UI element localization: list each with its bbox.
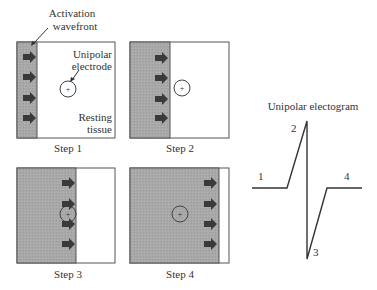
svg-text:+: + [66, 210, 71, 219]
diagram-canvas: + Activation wavefront Unipolar electrod… [0, 0, 377, 290]
electrogram-trace [252, 121, 362, 259]
point-label-4: 4 [344, 170, 350, 182]
step-label: Step 4 [166, 268, 194, 280]
electrode-label-1: Unipolar [73, 48, 112, 60]
tissue-label-1: Resting [78, 111, 112, 123]
step-1-panel: + Activation wavefront Unipolar electrod… [17, 7, 115, 154]
svg-text:+: + [66, 85, 71, 94]
electrogram: Unipolar electogram 1 2 3 4 [252, 100, 362, 259]
wavefront-label-1: Activation [49, 7, 96, 19]
tissue-label-2: tissue [87, 123, 112, 135]
step-2-panel: + Step 2 [130, 42, 229, 154]
point-label-1: 1 [258, 170, 264, 182]
point-label-2: 2 [291, 122, 297, 134]
electrogram-title: Unipolar electogram [268, 100, 359, 112]
electrode-label-2: electrode [72, 60, 112, 72]
point-label-3: 3 [313, 246, 319, 258]
step-4-panel: + Step 4 [130, 168, 229, 280]
svg-text:+: + [178, 210, 183, 219]
step-label: Step 1 [54, 142, 82, 154]
step-label: Step 3 [54, 268, 82, 280]
wavefront-label-2: wavefront [53, 20, 98, 32]
step-3-panel: + Step 3 [17, 168, 115, 280]
svg-text:+: + [180, 84, 185, 93]
step-label: Step 2 [166, 142, 194, 154]
